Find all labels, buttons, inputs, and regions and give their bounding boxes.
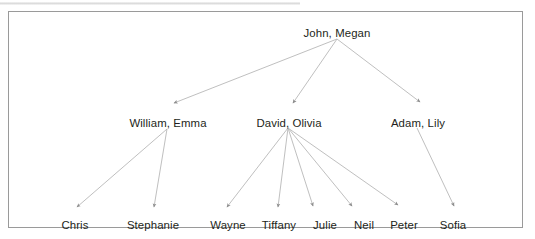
tree-node-david-olivia: David, Olivia — [256, 117, 321, 130]
tree-node-peter: Peter — [390, 219, 418, 232]
scan-artifact — [0, 2, 300, 5]
tree-node-tiffany: Tiffany — [262, 219, 296, 232]
tree-node-sofia: Sofia — [440, 219, 466, 232]
tree-node-adam-lily: Adam, Lily — [391, 117, 445, 130]
tree-node-john-megan: John, Megan — [304, 27, 371, 40]
tree-node-stephanie: Stephanie — [127, 219, 179, 232]
tree-node-chris: Chris — [61, 219, 88, 232]
tree-node-julie: Julie — [313, 219, 337, 232]
tree-node-wayne: Wayne — [210, 219, 246, 232]
tree-node-neil: Neil — [354, 219, 374, 232]
tree-node-william-emma: William, Emma — [129, 117, 206, 130]
